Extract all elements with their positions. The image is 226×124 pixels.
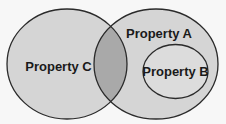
label-property-c: Property C: [25, 59, 92, 74]
venn-diagram: Property C Property A Property B: [0, 0, 226, 124]
label-property-a: Property A: [126, 26, 193, 41]
label-property-b: Property B: [142, 64, 208, 79]
